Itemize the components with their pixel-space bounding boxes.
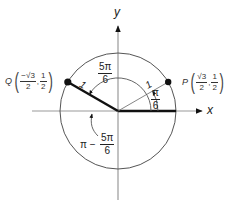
- p-y-coordinate: 1 2: [211, 73, 217, 92]
- point-q-label: Q ( −√3 2 , 1 2 ): [5, 70, 54, 92]
- reference-angle-prefix: π −: [80, 140, 96, 150]
- unit-circle-diagram: [0, 0, 231, 208]
- angle-label-pi6: π 6: [151, 88, 160, 111]
- q-y-coordinate: 1 2: [40, 72, 46, 91]
- q-x-coordinate: −√3 2: [20, 72, 36, 91]
- p-x-coordinate: √3 2: [196, 73, 207, 92]
- angle-label-5pi6: 5π 6: [98, 62, 112, 85]
- point-p-label: P ( √3 2 , 1 2 ): [182, 71, 225, 93]
- radius-to-p: [118, 82, 168, 111]
- point-q: [64, 78, 71, 85]
- point-p: [165, 79, 171, 85]
- y-axis-label: y: [114, 6, 120, 18]
- reference-angle-fraction: 5π 6: [100, 133, 114, 156]
- radius-to-q: [68, 82, 118, 111]
- reference-angle-pointer: [91, 114, 98, 136]
- x-axis-label: x: [207, 104, 213, 116]
